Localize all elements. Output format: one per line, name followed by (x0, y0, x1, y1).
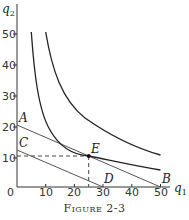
y-axis-label: q2 (2, 2, 15, 18)
figure-caption: Figure 2-3 (0, 202, 189, 215)
y-tick-label: 10 (2, 152, 16, 165)
y-tick-label: 40 (2, 59, 16, 72)
x-axis-label: q1 (174, 181, 187, 197)
point-c-label: C (19, 136, 28, 150)
point-a-label: A (18, 111, 28, 125)
y-tick-label: 30 (2, 90, 16, 103)
origin-label: 0 (7, 186, 14, 199)
y-tick-label: 20 (2, 121, 16, 134)
point-e-label: E (90, 142, 100, 156)
chart-canvas: 50 40 30 20 10 0 10 20 30 40 50 q2 q1 A … (0, 0, 189, 220)
x-tick-label: 30 (96, 186, 110, 199)
x-tick-label: 40 (125, 186, 139, 199)
point-b-label: B (161, 172, 171, 186)
x-tick-label: 50 (154, 186, 168, 199)
x-tick-label: 10 (39, 186, 53, 199)
y-tick-label: 50 (2, 28, 16, 41)
x-tick-label: 20 (67, 186, 81, 199)
point-d-label: D (103, 172, 114, 186)
indifference-curve-outer (46, 32, 161, 155)
